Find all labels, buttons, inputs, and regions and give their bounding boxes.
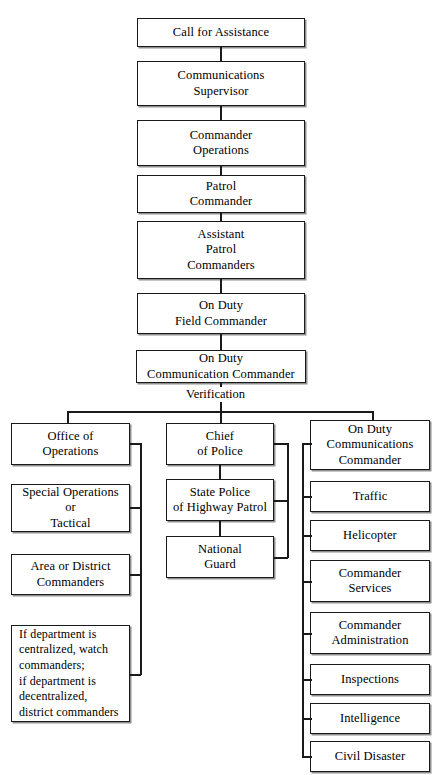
node-label: Civil Disaster: [335, 749, 406, 764]
node-on-duty-communications-commander[interactable]: On Duty Communications Commander: [310, 420, 430, 470]
node-label: If department is centralized, watch comm…: [19, 627, 119, 721]
left-column-bus: [140, 443, 142, 675]
right-stub-1: [302, 496, 312, 498]
node-helicopter[interactable]: Helicopter: [310, 520, 430, 551]
node-commander-services[interactable]: Commander Services: [310, 560, 430, 602]
left-stub-1: [129, 507, 141, 509]
node-special-operations-or-tactical[interactable]: Special Operations or Tactical: [11, 484, 130, 532]
node-civil-disaster[interactable]: Civil Disaster: [310, 741, 430, 772]
node-label: Office of Operations: [43, 429, 99, 460]
connector-chain-1-2: [220, 105, 222, 121]
node-patrol-commander[interactable]: Patrol Commander: [137, 175, 305, 213]
node-state-police-of-highway-patrol[interactable]: State Police of Highway Patrol: [166, 479, 274, 521]
right-stub-0: [302, 443, 312, 445]
bus-drop-right: [372, 411, 374, 420]
right-stub-2: [302, 535, 312, 537]
connector-chain-0-1: [220, 46, 222, 62]
node-label: Helicopter: [343, 528, 397, 543]
right-stub-3: [302, 581, 312, 583]
node-label: National Guard: [198, 542, 242, 573]
node-inspections[interactable]: Inspections: [310, 664, 430, 695]
node-label: Intelligence: [340, 711, 400, 726]
node-label: Communications Supervisor: [178, 68, 265, 99]
right-stub-4: [302, 633, 312, 635]
node-call-for-assistance[interactable]: Call for Assistance: [137, 18, 305, 47]
node-label: On Duty Communication Commander: [147, 351, 295, 382]
node-national-guard[interactable]: National Guard: [166, 536, 274, 578]
node-label: Inspections: [341, 672, 399, 687]
center-stub-2: [273, 557, 288, 559]
connector-label-verification: Verification: [183, 387, 248, 402]
node-label: Special Operations or Tactical: [22, 485, 119, 531]
connector-center-0-1: [219, 464, 221, 480]
node-watch-or-district-commanders-note[interactable]: If department is centralized, watch comm…: [11, 625, 130, 722]
node-label: Traffic: [353, 489, 388, 504]
node-label: Chief of Police: [197, 429, 243, 460]
node-label: Area or District Commanders: [30, 559, 110, 590]
node-label: State Police of Highway Patrol: [173, 485, 267, 516]
center-stub-1: [273, 500, 288, 502]
node-label: On Duty Field Commander: [175, 298, 267, 329]
node-label: Assistant Patrol Commanders: [187, 227, 255, 273]
node-on-duty-communication-commander[interactable]: On Duty Communication Commander: [136, 350, 306, 383]
node-label: Patrol Commander: [190, 179, 253, 210]
node-commander-operations[interactable]: Commander Operations: [137, 120, 305, 166]
node-assistant-patrol-commanders[interactable]: Assistant Patrol Commanders: [137, 221, 305, 279]
left-stub-3: [129, 674, 141, 676]
node-label: Commander Operations: [190, 128, 253, 159]
right-column-bus: [302, 443, 304, 757]
connector-chain-4-5: [220, 278, 222, 294]
connector-chain-5-6: [220, 333, 222, 350]
node-on-duty-field-commander[interactable]: On Duty Field Commander: [137, 293, 305, 334]
flowchart-canvas: Call for Assistance Communications Super…: [0, 0, 439, 775]
node-label: Call for Assistance: [173, 25, 269, 40]
connector-center-1-2: [219, 520, 221, 537]
node-chief-of-police[interactable]: Chief of Police: [166, 423, 274, 465]
node-commander-administration[interactable]: Commander Administration: [310, 612, 430, 654]
node-label: Commander Administration: [331, 618, 408, 649]
left-stub-2: [129, 574, 141, 576]
center-stub-0: [273, 443, 288, 445]
node-area-or-district-commanders[interactable]: Area or District Commanders: [11, 554, 130, 595]
left-stub-0: [129, 443, 141, 445]
right-stub-6: [302, 718, 312, 720]
node-office-of-operations[interactable]: Office of Operations: [11, 423, 130, 465]
right-stub-7: [302, 756, 312, 758]
node-intelligence[interactable]: Intelligence: [310, 703, 430, 734]
node-label: On Duty Communications Commander: [327, 422, 414, 468]
node-communications-supervisor[interactable]: Communications Supervisor: [137, 61, 305, 106]
node-label: Commander Services: [339, 566, 402, 597]
right-stub-5: [302, 679, 312, 681]
node-traffic[interactable]: Traffic: [310, 481, 430, 512]
